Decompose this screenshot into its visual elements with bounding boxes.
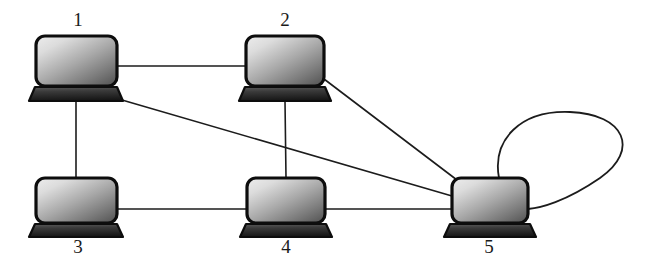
edges-layer [76,66,623,209]
laptop-node-4[interactable] [240,178,332,237]
laptop-base-2 [239,87,331,101]
node-label-4: 4 [281,236,291,257]
laptop-node-2[interactable] [239,36,331,101]
laptop-node-5[interactable] [444,178,536,237]
laptop-screen-1 [36,36,117,86]
laptop-screen-2 [246,36,324,86]
laptop-screen-5 [452,178,528,223]
node-label-5: 5 [484,236,494,257]
node-label-2: 2 [280,9,290,30]
node-label-1: 1 [73,9,83,30]
laptop-node-1[interactable] [29,36,123,101]
laptop-screen-3 [36,178,117,223]
nodes-layer [29,36,536,237]
edge-2-4 [285,101,286,178]
laptop-node-3[interactable] [29,178,123,237]
network-diagram: 12345 [0,0,646,272]
network-graph-canvas: 12345 [0,0,646,272]
node-label-3: 3 [73,236,83,257]
laptop-screen-4 [247,178,325,223]
laptop-base-1 [29,87,123,101]
